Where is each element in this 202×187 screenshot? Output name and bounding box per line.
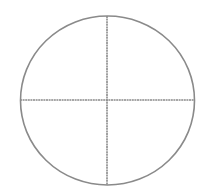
diagram-canvas	[0, 0, 202, 187]
quadrant-circle-diagram	[0, 0, 202, 187]
